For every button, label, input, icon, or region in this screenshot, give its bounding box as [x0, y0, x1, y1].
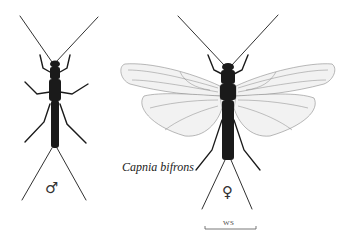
- illustration-svg: [0, 0, 351, 243]
- male-symbol: ♂: [45, 181, 58, 196]
- female-body: [220, 63, 236, 160]
- species-caption: Capnia bifrons: [122, 160, 194, 175]
- female-symbol: ♀: [222, 185, 233, 200]
- scale-bar-label: WS: [223, 219, 235, 227]
- stonefly-illustration: Capnia bifrons ♂ ♀ WS: [0, 0, 351, 243]
- male-body: [49, 61, 61, 149]
